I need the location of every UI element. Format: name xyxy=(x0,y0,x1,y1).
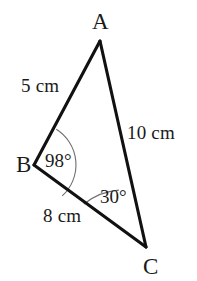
side-length-label-ab: 5 cm xyxy=(21,76,59,95)
side-ab xyxy=(34,41,100,165)
vertex-label-c: C xyxy=(143,255,158,278)
geometry-figure: A B C 5 cm 10 cm 8 cm 98° 30° xyxy=(0,0,197,281)
side-length-label-ac: 10 cm xyxy=(127,123,175,142)
vertex-label-a: A xyxy=(92,10,109,33)
side-length-label-bc: 8 cm xyxy=(43,206,81,225)
vertex-label-b: B xyxy=(16,153,31,176)
angle-measure-label-c: 30° xyxy=(100,187,127,206)
side-ac xyxy=(100,41,146,247)
angle-measure-label-b: 98° xyxy=(45,151,72,170)
